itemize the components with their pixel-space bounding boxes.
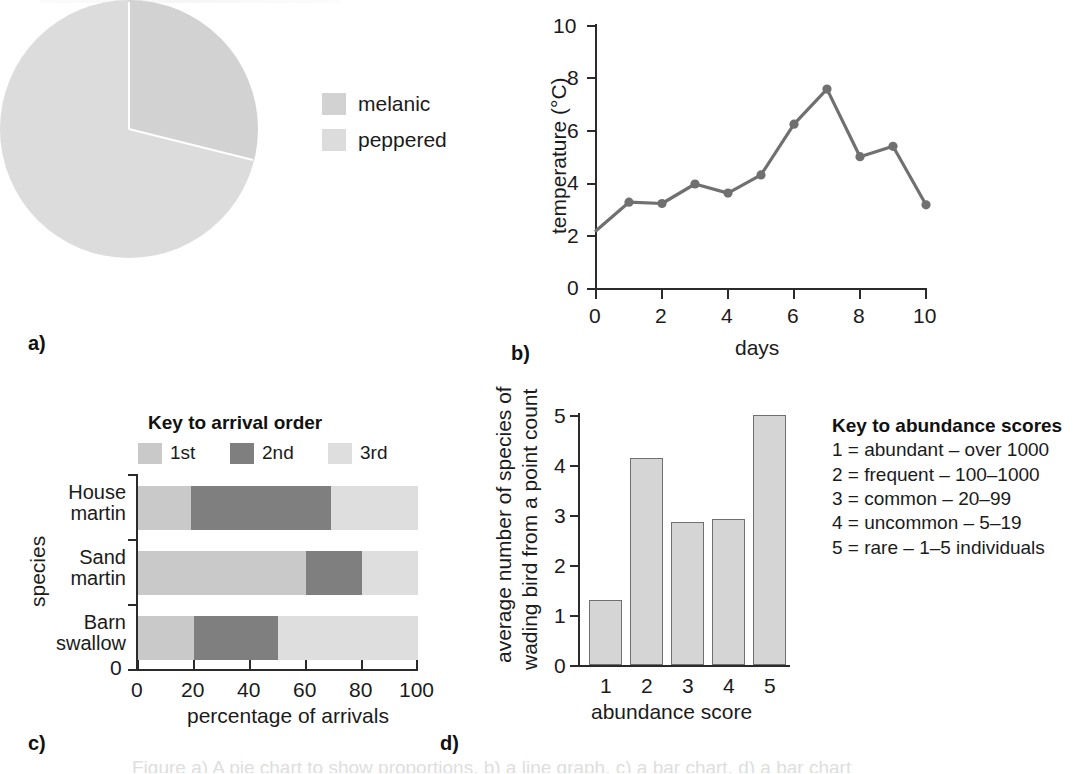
y-ticklabel-2: 2 (554, 554, 566, 578)
bar-abundance-2 (630, 458, 663, 666)
key-label-1st: 1st (170, 442, 195, 464)
y-tick-4 (570, 465, 579, 467)
x-ticklabel-6: 6 (787, 304, 799, 328)
category-label-house-martin: Housemartin (40, 482, 126, 524)
x-ticklabel-5: 5 (764, 674, 776, 698)
bar-segment-2nd (306, 551, 362, 595)
y-tick-0 (570, 665, 579, 667)
x-tick-60 (305, 660, 307, 670)
x-tick-20 (193, 660, 195, 670)
panel-letter-d: d) (440, 732, 459, 755)
y-ticklabel-0: 0 (554, 654, 566, 678)
x-ticklabel-0: 0 (589, 304, 601, 328)
legend-swatch-melanic (322, 93, 346, 115)
x-ticklabel-60: 60 (293, 678, 316, 702)
y-axis-title-species: species (26, 536, 50, 607)
abundance-key-line-2: 2 = frequent – 100–1000 (832, 463, 1082, 487)
legend-label-peppered: peppered (358, 128, 447, 152)
abundance-key-line-5: 5 = rare – 1–5 individuals (832, 536, 1082, 560)
bar-segment-3rd (278, 616, 418, 660)
abundance-key-line-1: 1 = abundant – over 1000 (832, 438, 1082, 462)
key-label-2nd: 2nd (262, 442, 294, 464)
x-ticklabel-2: 2 (641, 674, 653, 698)
panel-d-bar-chart: 5 4 3 2 1 0 1 2 3 4 5 average number of … (450, 408, 790, 708)
abundance-key-line-3: 3 = common – 20–99 (832, 487, 1082, 511)
y-axis-line-avg-species (578, 413, 580, 667)
y-ticklabel-1: 1 (554, 604, 566, 628)
y-ticklabel-5: 5 (554, 404, 566, 428)
bar-segment-1st (138, 551, 306, 595)
key-swatch-1st (138, 443, 162, 464)
key-title-arrival-order: Key to arrival order (148, 412, 322, 434)
abundance-key-title: Key to abundance scores (832, 414, 1082, 438)
x-ticklabel-4: 4 (723, 674, 735, 698)
legend-item-peppered: peppered (322, 128, 447, 152)
table-row (138, 486, 418, 530)
bar-segment-3rd (331, 486, 418, 530)
bar-segment-3rd (362, 551, 418, 595)
x-axis-title-days: days (735, 336, 779, 360)
legend-swatch-peppered (322, 129, 346, 151)
key-item-3rd: 3rd (328, 442, 387, 464)
bar-abundance-1 (589, 600, 622, 665)
key-swatch-3rd (328, 443, 352, 464)
pie-chart (0, 0, 258, 258)
y-tick-top (128, 474, 137, 476)
y-tick-2 (570, 565, 579, 567)
x-tick-40 (249, 660, 251, 670)
legend-item-melanic: melanic (322, 92, 430, 116)
x-tick-80 (361, 660, 363, 670)
pie-separator-top (128, 2, 130, 129)
x-tick-100 (416, 660, 418, 670)
abundance-key-line-4: 4 = uncommon – 5–19 (832, 511, 1082, 535)
y-axis-title-line2: wading bird from a point count (518, 389, 542, 670)
bar-abundance-5 (753, 415, 786, 665)
y-tick-1 (570, 615, 579, 617)
x-ticklabel-40: 40 (237, 678, 260, 702)
line-series-svg (535, 14, 1005, 304)
line-series-path (596, 89, 926, 231)
x-ticklabel-3: 3 (682, 674, 694, 698)
y-tick-origin (128, 669, 137, 671)
panel-b-line-chart: 10 8 6 4 2 0 0 2 4 6 8 10 temperature (°… (535, 14, 1005, 304)
bar-segment-2nd (191, 486, 331, 530)
table-row (138, 551, 418, 595)
bar-abundance-3 (671, 522, 704, 666)
panel-letter-c: c) (28, 732, 46, 755)
x-ticklabel-1: 1 (600, 674, 612, 698)
x-ticklabel-100: 100 (399, 678, 434, 702)
category-label-sand-martin: Sandmartin (40, 547, 126, 589)
y-tick-div-2 (128, 604, 137, 606)
x-axis-title-percentage: percentage of arrivals (187, 704, 389, 728)
x-ticklabel-80: 80 (349, 678, 372, 702)
panel-c-stacked-bar-chart: Key to arrival order 1st 2nd 3rd Housema… (20, 412, 440, 712)
bar-segment-1st (138, 616, 194, 660)
x-tick-0 (137, 660, 139, 670)
panel-letter-b: b) (511, 342, 530, 365)
x-ticklabel-2: 2 (655, 304, 667, 328)
panel-letter-a: a) (28, 332, 46, 355)
panel-a-pie-chart: melanic peppered a) (0, 0, 258, 258)
y-origin-label: 0 (110, 656, 122, 680)
x-ticklabel-8: 8 (853, 304, 865, 328)
y-axis-title-line1: average number of species of (492, 386, 516, 663)
x-axis-line-percentage (136, 669, 418, 671)
category-label-barn-swallow: Barnswallow (30, 612, 126, 654)
y-ticklabel-4: 4 (554, 454, 566, 478)
bar-segment-1st (138, 486, 191, 530)
y-ticklabel-3: 3 (554, 504, 566, 528)
x-ticklabel-20: 20 (181, 678, 204, 702)
x-axis-line-abundance (578, 665, 790, 667)
x-ticklabel-0: 0 (131, 678, 143, 702)
x-ticklabel-10: 10 (913, 304, 936, 328)
key-label-3rd: 3rd (360, 442, 387, 464)
x-ticklabel-4: 4 (721, 304, 733, 328)
bar-abundance-4 (712, 519, 745, 665)
y-tick-5 (570, 415, 579, 417)
key-swatch-2nd (230, 443, 254, 464)
table-row (138, 616, 418, 660)
y-tick-3 (570, 515, 579, 517)
abundance-key: Key to abundance scores 1 = abundant – o… (832, 414, 1082, 560)
x-axis-title-abundance-score: abundance score (591, 700, 752, 724)
key-item-2nd: 2nd (230, 442, 294, 464)
